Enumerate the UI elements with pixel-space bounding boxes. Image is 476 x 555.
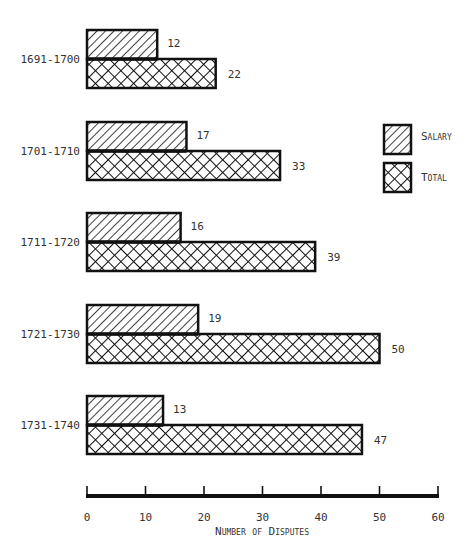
value-label-total: 47	[374, 434, 387, 447]
value-label-salary: 17	[196, 129, 209, 142]
legend-label-salary: Salary	[421, 130, 452, 143]
category-label: 1721-1730	[20, 328, 80, 341]
value-label-salary: 16	[191, 220, 204, 233]
x-tick-label: 20	[197, 511, 210, 524]
bar-total	[87, 59, 216, 88]
legend-label-total: Total	[421, 171, 447, 184]
legend-swatch-salary	[384, 125, 411, 154]
category-label: 1731-1740	[20, 419, 80, 432]
bar-salary	[87, 396, 163, 425]
bar-salary	[87, 30, 157, 59]
x-tick-label: 10	[139, 511, 152, 524]
bar-group: 1711-17201639	[20, 213, 340, 271]
bar-group: 1701-17101733	[20, 122, 305, 180]
x-tick-label: 0	[84, 511, 91, 524]
bars-group: 1691-170012221701-171017331711-172016391…	[20, 30, 404, 454]
value-label-total: 22	[228, 68, 241, 81]
value-label-salary: 13	[173, 403, 186, 416]
x-tick-label: 30	[256, 511, 269, 524]
category-label: 1701-1710	[20, 145, 80, 158]
x-tick-label: 60	[431, 511, 444, 524]
bar-total	[87, 242, 315, 271]
value-label-salary: 12	[167, 37, 180, 50]
x-tick-label: 50	[373, 511, 386, 524]
bar-salary	[87, 305, 198, 334]
bar-group: 1691-17001222	[20, 30, 241, 88]
x-axis: 0102030405060	[84, 486, 445, 524]
bar-group: 1721-17301950	[20, 305, 404, 363]
category-label: 1711-1720	[20, 236, 80, 249]
bar-salary	[87, 122, 186, 151]
x-axis-label: Number of Disputes	[215, 525, 309, 538]
bar-group: 1731-17401347	[20, 396, 387, 454]
bar-total	[87, 334, 380, 363]
bar-total	[87, 151, 280, 180]
bar-chart: 1691-170012221701-171017331711-172016391…	[0, 0, 476, 555]
bar-salary	[87, 213, 181, 242]
legend: Salary Total	[384, 125, 452, 192]
legend-swatch-total	[384, 163, 411, 192]
value-label-salary: 19	[208, 312, 221, 325]
bar-total	[87, 425, 362, 454]
value-label-total: 33	[292, 160, 305, 173]
value-label-total: 39	[327, 251, 340, 264]
x-tick-label: 40	[314, 511, 327, 524]
value-label-total: 50	[392, 343, 405, 356]
category-label: 1691-1700	[20, 53, 80, 66]
